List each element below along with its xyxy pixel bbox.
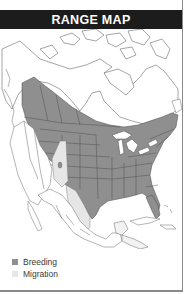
breeding-spot [58,162,62,168]
legend-item-breeding: Breeding [12,256,58,267]
florida [146,195,160,219]
migration-swatch-icon [12,271,18,277]
map-legend: Breeding Migration [12,256,58,280]
legend-item-migration: Migration [12,268,58,279]
legend-label: Migration [23,269,58,279]
range-map-card: RANGE MAP [0,0,183,292]
legend-label: Breeding [23,257,57,267]
header-bar: RANGE MAP [0,10,182,29]
arctic-islands [40,29,170,59]
range-map [0,29,182,249]
page-title: RANGE MAP [51,13,130,27]
breeding-swatch-icon [12,259,18,265]
